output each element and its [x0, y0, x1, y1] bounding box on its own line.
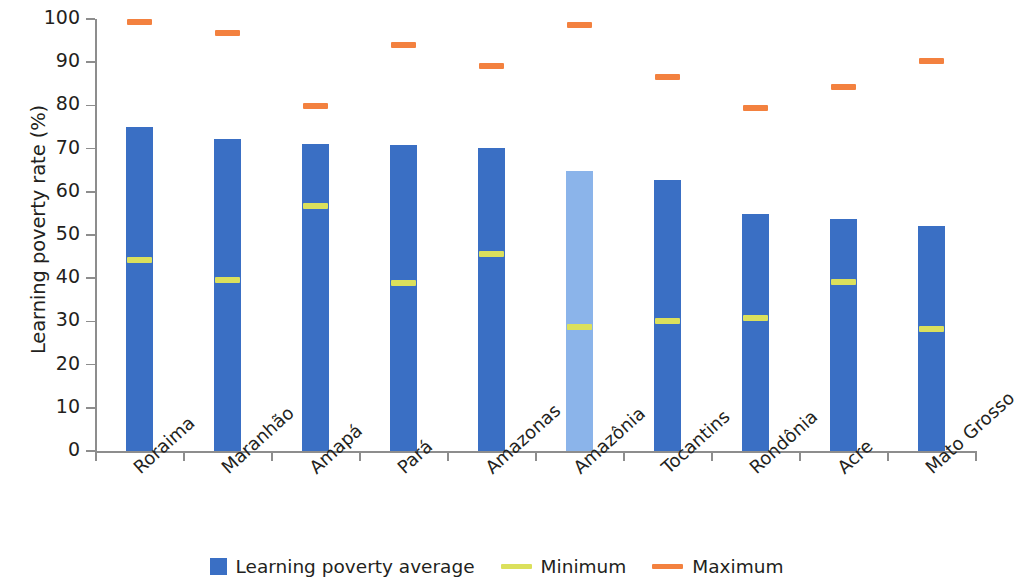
- bar-pará[interactable]: [390, 145, 417, 451]
- maximum-marker[interactable]: [567, 22, 592, 28]
- y-axis-tick-label: 50: [34, 224, 80, 243]
- x-axis-tick: [711, 451, 713, 461]
- maximum-marker[interactable]: [655, 74, 680, 80]
- y-axis-line: [95, 19, 97, 451]
- y-axis-tick-label: 10: [34, 397, 80, 416]
- x-axis-tick: [183, 451, 185, 461]
- x-axis-tick: [975, 451, 977, 461]
- y-axis-tick: [86, 277, 95, 279]
- legend-square-icon: [210, 558, 227, 575]
- minimum-marker[interactable]: [743, 315, 768, 321]
- y-axis-tick: [86, 191, 95, 193]
- y-axis-tick-label: 60: [34, 181, 80, 200]
- y-axis-tick: [86, 364, 95, 366]
- x-axis-tick: [95, 451, 97, 461]
- bar-acre[interactable]: [830, 219, 857, 451]
- x-axis-tick: [271, 451, 273, 461]
- bar-amapá[interactable]: [302, 144, 329, 451]
- y-axis-tick: [86, 148, 95, 150]
- minimum-marker[interactable]: [303, 203, 328, 209]
- legend-item-learning-poverty-average[interactable]: Learning poverty average: [210, 556, 475, 577]
- chart-legend: Learning poverty averageMinimumMaximum: [0, 556, 993, 577]
- bar-tocantins[interactable]: [654, 180, 681, 451]
- bar-amazônia[interactable]: [566, 171, 593, 451]
- x-axis-tick: [535, 451, 537, 461]
- maximum-marker[interactable]: [919, 58, 944, 64]
- maximum-marker[interactable]: [127, 19, 152, 25]
- legend-line-icon: [501, 564, 532, 569]
- maximum-marker[interactable]: [831, 84, 856, 90]
- y-axis-tick: [86, 105, 95, 107]
- minimum-marker[interactable]: [567, 324, 592, 330]
- minimum-marker[interactable]: [391, 280, 416, 286]
- y-axis-tick-label: 40: [34, 267, 80, 286]
- y-axis-tick: [86, 450, 95, 452]
- legend-item-maximum[interactable]: Maximum: [652, 556, 783, 577]
- plot-area: [95, 19, 975, 451]
- maximum-marker[interactable]: [215, 30, 240, 36]
- maximum-marker[interactable]: [391, 42, 416, 48]
- x-axis-tick: [623, 451, 625, 461]
- minimum-marker[interactable]: [655, 318, 680, 324]
- y-axis-tick: [86, 18, 95, 20]
- y-axis-tick-label: 30: [34, 310, 80, 329]
- legend-line-icon: [652, 564, 683, 569]
- bar-roraima[interactable]: [126, 127, 153, 451]
- maximum-marker[interactable]: [479, 63, 504, 69]
- y-axis-tick-label: 20: [34, 354, 80, 373]
- y-axis-tick: [86, 407, 95, 409]
- y-axis-tick: [86, 61, 95, 63]
- bar-maranhão[interactable]: [214, 139, 241, 451]
- minimum-marker[interactable]: [479, 251, 504, 257]
- y-axis-tick-label: 0: [34, 440, 80, 459]
- minimum-marker[interactable]: [919, 326, 944, 332]
- x-axis-tick: [447, 451, 449, 461]
- minimum-marker[interactable]: [127, 257, 152, 263]
- maximum-marker[interactable]: [303, 103, 328, 109]
- legend-label: Learning poverty average: [236, 556, 475, 577]
- y-axis-tick-label: 100: [34, 8, 80, 27]
- legend-item-minimum[interactable]: Minimum: [501, 556, 627, 577]
- minimum-marker[interactable]: [215, 277, 240, 283]
- bar-amazonas[interactable]: [478, 148, 505, 451]
- bar-mato-grosso[interactable]: [918, 226, 945, 451]
- x-axis-tick: [799, 451, 801, 461]
- bar-rondônia[interactable]: [742, 214, 769, 451]
- y-axis-tick-label: 70: [34, 138, 80, 157]
- legend-label: Maximum: [692, 556, 783, 577]
- legend-label: Minimum: [541, 556, 627, 577]
- x-axis-tick: [359, 451, 361, 461]
- x-axis-tick: [887, 451, 889, 461]
- y-axis-tick-label: 90: [34, 51, 80, 70]
- y-axis-tick-label: 80: [34, 94, 80, 113]
- y-axis-tick: [86, 321, 95, 323]
- minimum-marker[interactable]: [831, 279, 856, 285]
- maximum-marker[interactable]: [743, 105, 768, 111]
- y-axis-tick: [86, 234, 95, 236]
